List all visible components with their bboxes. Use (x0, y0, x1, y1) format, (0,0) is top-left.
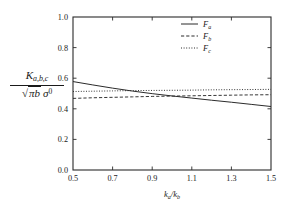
chart-legend: FaFbFc (181, 20, 211, 54)
x-axis-title: ka/kb (164, 189, 180, 200)
x-axis-ticks (113, 17, 232, 170)
data-curves (73, 82, 271, 107)
x-axis-tick-labels: 0.50.70.91.11.31.5 (68, 174, 276, 183)
y-axis-ticks (73, 48, 271, 140)
figure-container: Ka,b,c √πbσ0 0.50.70.91.11.31.5 0.00.20.… (0, 0, 290, 209)
y-tick-label: 0.6 (58, 74, 68, 83)
legend-label-f-b: Fb (202, 32, 211, 42)
x-tick-label: 0.5 (68, 174, 78, 183)
plot-frame (73, 17, 271, 170)
y-tick-label: 0.2 (58, 135, 68, 144)
curve-f-c (73, 89, 271, 91)
x-tick-label: 1.1 (187, 174, 197, 183)
x-tick-label: 1.3 (226, 174, 236, 183)
x-tick-label: 0.9 (147, 174, 157, 183)
y-tick-label: 0.8 (58, 44, 68, 53)
x-tick-label: 1.5 (266, 174, 276, 183)
curve-f-a (73, 82, 271, 107)
legend-label-f-c: Fc (202, 44, 211, 54)
y-axis-tick-labels: 0.00.20.40.60.81.0 (58, 13, 68, 175)
curve-f-b (73, 95, 271, 99)
legend-label-f-a: Fa (202, 20, 211, 30)
chart-plot: 0.50.70.91.11.31.5 0.00.20.40.60.81.0 Fa… (0, 0, 290, 209)
y-tick-label: 0.0 (58, 166, 68, 175)
y-tick-label: 0.4 (58, 105, 68, 114)
y-tick-label: 1.0 (58, 13, 68, 22)
x-tick-label: 0.7 (107, 174, 117, 183)
